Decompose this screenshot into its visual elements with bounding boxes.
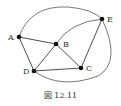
- label-b: B: [63, 40, 69, 49]
- edge-b-d: [34, 44, 56, 71]
- figure-caption: 図 12.11: [0, 89, 121, 100]
- edge-d-e: [34, 19, 111, 82]
- edge-d-c: [34, 68, 81, 71]
- label-e: E: [107, 15, 113, 24]
- node-b: [54, 42, 59, 47]
- node-d: [32, 69, 37, 74]
- edge-a-e: [19, 7, 102, 37]
- label-c: C: [86, 64, 92, 73]
- edge-c-e: [81, 19, 102, 68]
- label-a: A: [7, 33, 14, 42]
- node-a: [17, 35, 22, 40]
- label-d: D: [23, 67, 29, 76]
- node-c: [79, 66, 84, 71]
- edge-a-d: [19, 37, 34, 71]
- edge-a-b: [19, 37, 56, 44]
- node-e: [100, 17, 105, 22]
